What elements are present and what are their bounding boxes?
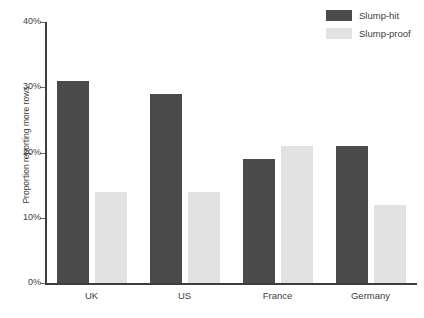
x-axis-label-france: France: [231, 290, 324, 301]
x-axis-label-us: US: [138, 290, 231, 301]
bar-series-container: [45, 22, 417, 283]
y-tick-label: 40%: [23, 16, 41, 26]
bar-germany-slump-hit: [336, 146, 368, 283]
x-axis-line: [45, 283, 417, 285]
bar-us-slump-hit: [150, 94, 182, 283]
y-tick-label: 30%: [23, 81, 41, 91]
y-tick-label: 0%: [28, 277, 41, 287]
legend-label-slump-hit: Slump-hit: [359, 10, 399, 21]
x-axis-label-germany: Germany: [324, 290, 417, 301]
bar-chart-figure: Slump-hit Slump-proof Proportion reporti…: [0, 0, 424, 318]
legend-item-slump-hit: Slump-hit: [326, 8, 422, 23]
y-tick-label: 20%: [23, 147, 41, 157]
bar-uk-slump-proof: [95, 192, 127, 283]
plot-area: 0%10%20%30%40% UKUSFranceGermany: [45, 22, 417, 283]
bar-france-slump-proof: [281, 146, 313, 283]
bar-us-slump-proof: [188, 192, 220, 283]
bar-france-slump-hit: [243, 159, 275, 283]
bar-germany-slump-proof: [374, 205, 406, 283]
x-axis-label-uk: UK: [45, 290, 138, 301]
bar-uk-slump-hit: [57, 81, 89, 283]
legend-swatch-slump-hit: [326, 10, 352, 21]
y-tick-label: 10%: [23, 212, 41, 222]
